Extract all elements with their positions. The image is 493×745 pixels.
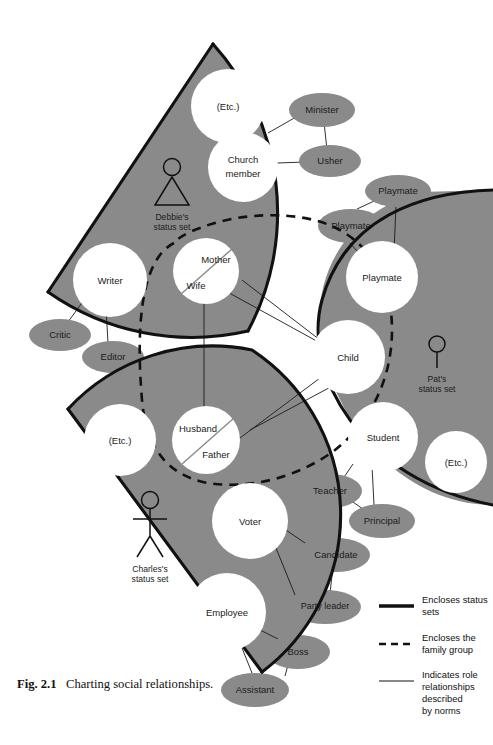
legend-label-line2: family group (422, 644, 473, 655)
status-node-label: (Etc.) (445, 457, 468, 468)
counter-role-label: Assistant (236, 684, 275, 695)
status-set-sublabel: status set (154, 222, 191, 232)
legend-label-line1: Encloses the (422, 632, 476, 643)
status-node-label: Playmate (362, 272, 402, 283)
counter-role-boss[interactable]: Boss (266, 635, 330, 669)
legend-label-line4: by norms (422, 705, 461, 716)
status-set-sublabel: status set (132, 574, 169, 584)
status-node-charles-etc[interactable]: (Etc.) (84, 404, 156, 476)
counter-role-label: Playmate (378, 185, 418, 196)
status-set-name: Charles's (132, 564, 168, 574)
status-node-church-member[interactable]: Church member (208, 132, 278, 202)
legend-label-line3: described (422, 693, 463, 704)
status-node-employee[interactable]: Employee (188, 573, 266, 651)
status-node-mother-wife[interactable]: Mother Wife (173, 238, 239, 304)
status-node-husband-father[interactable]: Husband Father (172, 406, 240, 474)
figure-caption-number: Fig. 2.1 (17, 677, 57, 691)
status-node-playmate[interactable]: Playmate (346, 241, 418, 313)
legend-label-line2: sets (422, 606, 440, 617)
counter-role-label: Party leader (301, 601, 350, 611)
counter-role-usher[interactable]: Usher (299, 145, 361, 177)
status-node-shape (173, 238, 239, 304)
counter-role-principal[interactable]: Principal (349, 504, 415, 538)
status-node-label: Student (367, 432, 400, 443)
legend-label-line1: Encloses status (422, 594, 488, 605)
status-node-student[interactable]: Student (348, 402, 418, 472)
figure-caption: Fig. 2.1 Charting social relationships. (17, 676, 217, 693)
figure-diagram: Minister Usher Playmate Playmate Critic (0, 0, 493, 745)
status-node-label-line1: Husband (179, 423, 217, 434)
status-node-label: Employee (206, 607, 248, 618)
status-node-label: (Etc.) (109, 435, 132, 446)
counter-role-minister[interactable]: Minister (289, 93, 355, 127)
status-node-voter[interactable]: Voter (212, 483, 288, 559)
status-node-label-line1: Church (228, 154, 259, 165)
status-node-label: Voter (239, 516, 261, 527)
status-node-writer[interactable]: Writer (73, 243, 147, 317)
status-node-label-line1: Mother (201, 254, 231, 265)
counter-role-label: Teacher (313, 485, 347, 496)
status-node-child[interactable]: Child (311, 320, 385, 394)
status-set-name: Pat's (428, 374, 447, 384)
counter-role-assistant[interactable]: Assistant (221, 673, 289, 707)
status-node-debbie-etc[interactable]: (Etc.) (191, 69, 265, 143)
social-relationships-svg: Minister Usher Playmate Playmate Critic (0, 0, 493, 745)
legend-label-line2: relationships (422, 681, 475, 692)
status-node-pat-etc[interactable]: (Etc.) (425, 431, 487, 493)
counter-role-label: Editor (101, 351, 126, 362)
status-node-label: Child (337, 352, 359, 363)
status-node-label: Writer (97, 275, 122, 286)
status-node-label-line2: member (226, 168, 261, 179)
counter-role-label: Principal (364, 515, 400, 526)
status-node-label: (Etc.) (217, 101, 240, 112)
status-node-label-line2: Father (202, 449, 229, 460)
counter-role-label: Critic (49, 329, 71, 340)
counter-role-teacher[interactable]: Teacher (298, 474, 362, 508)
counter-role-label: Usher (317, 155, 342, 166)
status-set-name: Debbie's (155, 212, 188, 222)
figure-caption-text: Charting social relationships. (66, 677, 213, 691)
counter-role-editor[interactable]: Editor (82, 341, 144, 373)
counter-role-critic[interactable]: Critic (29, 319, 91, 351)
status-node-label-line2: Wife (187, 280, 206, 291)
legend-label-line1: Indicates role (422, 669, 478, 680)
counter-role-label: Minister (305, 104, 338, 115)
status-set-sublabel: status set (419, 384, 456, 394)
